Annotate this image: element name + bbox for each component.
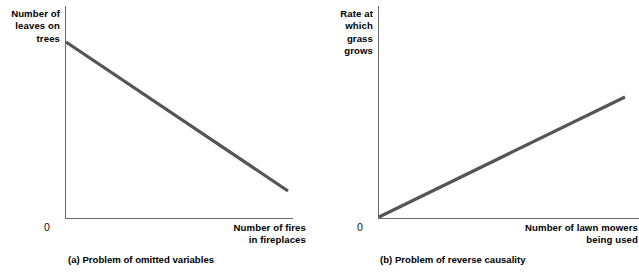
- y-axis-label-b-line4: grows: [320, 45, 373, 57]
- y-axis-label-b-line1: Rate at: [320, 8, 373, 20]
- caption-b: (b) Problem of reverse causality: [380, 254, 526, 266]
- figure-container: Number of leaves on trees 0 Number of fi…: [0, 0, 639, 277]
- y-axis-label-a: Number of leaves on trees: [0, 8, 60, 45]
- x-axis-label-b-line2: being used: [478, 234, 638, 246]
- x-axis-label-b: Number of lawn mowers being used: [478, 222, 638, 247]
- origin-label-a: 0: [44, 221, 50, 233]
- x-axis-label-a: Number of fires in fireplaces: [186, 222, 306, 247]
- y-axis-label-a-line3: trees: [0, 33, 60, 45]
- origin-label-b: 0: [357, 221, 363, 233]
- panel-omitted-variables: Number of leaves on trees 0 Number of fi…: [0, 0, 320, 277]
- x-axis-label-b-line1: Number of lawn mowers: [478, 222, 638, 234]
- trend-line-negative: [66, 42, 288, 191]
- y-axis-label-b: Rate at which grass grows: [320, 8, 373, 58]
- panel-reverse-causality: Rate at which grass grows 0 Number of la…: [320, 0, 639, 277]
- caption-a: (a) Problem of omitted variables: [68, 254, 214, 266]
- x-axis-label-a-line2: in fireplaces: [186, 234, 306, 246]
- y-axis-label-b-line3: grass: [320, 33, 373, 45]
- trend-line-positive: [379, 97, 625, 217]
- y-axis-label-a-line2: leaves on: [0, 20, 60, 32]
- x-axis-label-a-line1: Number of fires: [186, 222, 306, 234]
- y-axis-label-b-line2: which: [320, 20, 373, 32]
- y-axis-label-a-line1: Number of: [0, 8, 60, 20]
